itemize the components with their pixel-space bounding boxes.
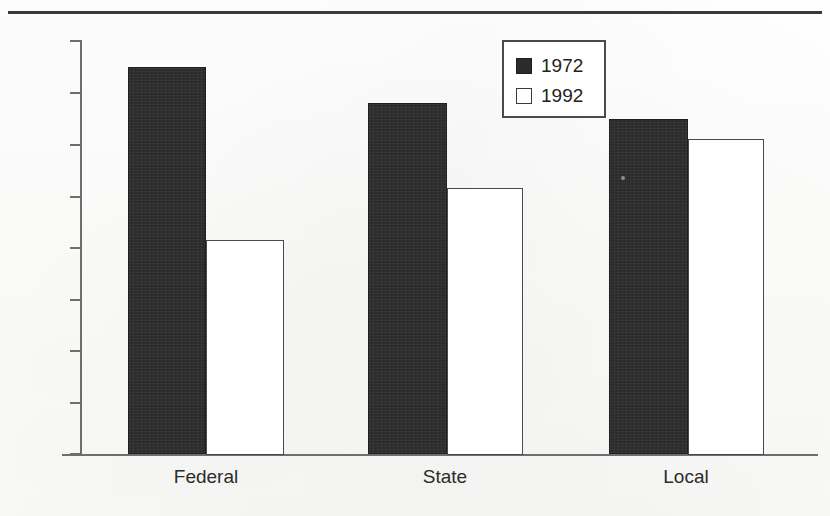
y-tick-mark — [70, 196, 81, 198]
bar-local-1972[interactable] — [609, 119, 688, 454]
bar-federal-1992[interactable] — [206, 240, 284, 455]
y-tick-mark — [70, 144, 81, 146]
y-tick-mark — [70, 40, 81, 42]
y-tick-mark — [70, 402, 81, 404]
y-tick-mark — [70, 453, 81, 455]
legend-entry-1972[interactable]: 1972 — [516, 51, 604, 81]
x-label-federal: Federal — [126, 466, 286, 488]
bar-state-1992[interactable] — [447, 188, 523, 455]
legend-entry-1992[interactable]: 1992 — [516, 81, 604, 111]
x-label-local: Local — [607, 466, 765, 488]
bar-local-1992[interactable] — [688, 139, 764, 455]
legend-label-1972: 1972 — [541, 55, 583, 77]
legend-swatch-filled-square-icon — [516, 58, 532, 74]
y-tick-mark — [70, 299, 81, 301]
y-tick-mark — [70, 92, 81, 94]
y-tick-mark — [70, 350, 81, 352]
plot-area: 80% 70% 60% 50% 40% 30% 20% 10% — [0, 0, 830, 516]
bar-federal-1972[interactable] — [128, 67, 206, 454]
bar-state-1972[interactable] — [368, 103, 447, 454]
legend-label-1992: 1992 — [541, 85, 583, 107]
x-label-state: State — [366, 466, 524, 488]
y-tick-mark — [70, 247, 81, 249]
scan-artifact-speck — [621, 176, 625, 180]
chart-legend: 1972 1992 — [502, 40, 606, 118]
chart-page: 80% 70% 60% 50% 40% 30% 20% 10% — [0, 0, 830, 516]
legend-swatch-outlined-square-icon — [516, 88, 532, 104]
